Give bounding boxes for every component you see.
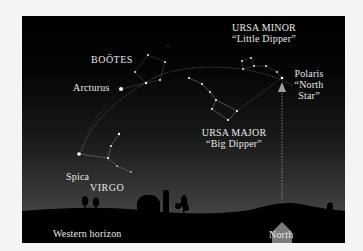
ursa-major-label: URSA MAJOR bbox=[189, 128, 279, 138]
north-label: North bbox=[269, 230, 293, 240]
bootes-label: BOÖTES bbox=[91, 55, 133, 65]
barn-silhouette bbox=[137, 195, 160, 213]
star-arcturus bbox=[119, 87, 123, 91]
ursa-minor-label: URSA MINOR bbox=[214, 23, 314, 33]
arcturus-label: Arcturus bbox=[73, 83, 110, 93]
north-star-label-line1: “North bbox=[284, 80, 334, 90]
silo-silhouette bbox=[163, 190, 169, 213]
north-star-label-line2: Star” bbox=[284, 91, 334, 101]
little-dipper-label: “Little Dipper” bbox=[214, 34, 314, 44]
little-dipper-lines bbox=[242, 58, 282, 78]
star-polaris bbox=[281, 77, 284, 80]
polaris-label: Polaris bbox=[284, 69, 334, 79]
star-chart-graphic bbox=[22, 16, 345, 243]
virgo-lines bbox=[79, 134, 131, 172]
big-dipper-label: “Big Dipper” bbox=[189, 139, 279, 149]
virgo-label: VIRGO bbox=[90, 183, 124, 193]
spica-label: Spica bbox=[66, 172, 89, 182]
western-horizon-label: Western horizon bbox=[53, 229, 122, 239]
star-chart-panel: URSA MINOR “Little Dipper” BOÖTES Arctur… bbox=[22, 16, 345, 243]
star-spica bbox=[77, 152, 81, 156]
arc-to-spica-line bbox=[80, 89, 121, 155]
